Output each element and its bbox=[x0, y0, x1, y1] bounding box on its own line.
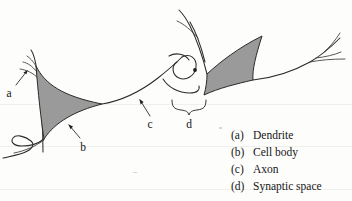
legend-item-b: (b) Cell body bbox=[231, 144, 349, 161]
cell-body-right bbox=[204, 36, 262, 95]
callout-b-label: b bbox=[80, 141, 86, 153]
legend-key-c: (c) bbox=[231, 161, 253, 178]
axon-terminal-lower-sweep bbox=[163, 79, 199, 93]
legend-key-b: (b) bbox=[231, 144, 253, 161]
callout-b: b bbox=[68, 124, 86, 153]
legend-label-b: Cell body bbox=[253, 144, 298, 161]
dendrite-right-branch-1 bbox=[179, 10, 207, 74]
legend-item-a: (a) Dendrite bbox=[231, 127, 349, 144]
dendrite-left-lower-loop bbox=[3, 136, 44, 158]
legend-item-c: (c) Axon bbox=[231, 161, 349, 178]
axon-right bbox=[253, 38, 340, 80]
callout-a-label: a bbox=[6, 87, 11, 99]
legend-item-d: (d) Synaptic space bbox=[231, 178, 349, 195]
callout-c-label: c bbox=[147, 118, 152, 130]
legend-label-c: Axon bbox=[253, 161, 279, 178]
legend-key-a: (a) bbox=[231, 127, 253, 144]
neuron-right bbox=[177, 10, 345, 95]
axon-terminal-curl bbox=[173, 56, 196, 79]
axon bbox=[102, 57, 182, 104]
callout-d: d bbox=[172, 100, 206, 130]
legend: (a) Dendrite (b) Cell body (c) Axon (d) … bbox=[231, 127, 349, 195]
figure-root: a b c d (a) Dendrite (b) Cell body bbox=[0, 0, 352, 201]
synaptic-vesicle-dot bbox=[193, 68, 197, 72]
axon-right-branch-2 bbox=[322, 33, 340, 54]
legend-key-d: (d) bbox=[231, 178, 253, 195]
callout-a: a bbox=[6, 70, 27, 99]
legend-label-a: Dendrite bbox=[253, 127, 293, 144]
legend-label-d: Synaptic space bbox=[253, 178, 322, 195]
neuron-left bbox=[3, 50, 199, 158]
callout-c: c bbox=[139, 99, 152, 130]
axon-right-branch-1 bbox=[310, 59, 345, 62]
callout-c-arrowhead bbox=[139, 99, 143, 104]
axon-terminal-hook bbox=[169, 54, 189, 60]
callout-a-arrowhead bbox=[23, 70, 27, 74]
synaptic-space-brace bbox=[172, 100, 206, 115]
cell-body-left bbox=[36, 66, 102, 139]
callout-d-label: d bbox=[186, 118, 192, 130]
